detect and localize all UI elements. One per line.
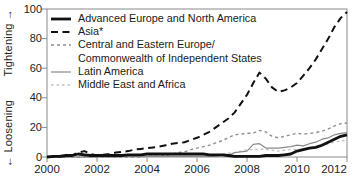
legend-label: Central and Eastern Europe/ Commonwealth… — [78, 38, 262, 64]
legend-swatch-line — [50, 65, 72, 78]
x-tick-label: 2012 — [312, 163, 356, 175]
y-tick-label: 40 — [14, 91, 42, 103]
y-tick-label: 100 — [14, 3, 42, 15]
y-tick-label: 0 — [14, 151, 42, 163]
y-tick-label: 80 — [14, 32, 42, 44]
legend-label: Latin America — [78, 65, 143, 78]
x-tick-label: 2000 — [25, 163, 69, 175]
monetary-policy-line-chart: ← Loosening Tightening → 020406080100 20… — [0, 0, 357, 191]
y-tick-label: 20 — [14, 121, 42, 133]
legend-item: Asia* — [50, 25, 262, 38]
legend-item: Middle East and Africa — [50, 78, 262, 91]
y-tick-label: 60 — [14, 62, 42, 74]
x-tick-label: 2008 — [225, 163, 269, 175]
legend-label: Asia* — [78, 25, 103, 38]
legend-swatch-line — [50, 12, 72, 25]
legend-swatch-line — [50, 78, 72, 91]
x-tick-label: 2002 — [75, 163, 119, 175]
legend-item: Latin America — [50, 65, 262, 78]
legend-item: Central and Eastern Europe/ Commonwealth… — [50, 38, 262, 64]
x-tick-label: 2004 — [125, 163, 169, 175]
legend-item: Advanced Europe and North America — [50, 12, 262, 25]
legend-label: Middle East and Africa — [78, 78, 185, 91]
series-line-central-and-eastern-europe-commonwealth-of-independent-states — [47, 123, 347, 157]
legend-swatch-line — [50, 25, 72, 38]
x-tick-label: 2006 — [175, 163, 219, 175]
legend-swatch-line — [50, 38, 72, 51]
legend-label: Advanced Europe and North America — [78, 12, 256, 25]
legend: Advanced Europe and North AmericaAsia*Ce… — [50, 12, 262, 91]
